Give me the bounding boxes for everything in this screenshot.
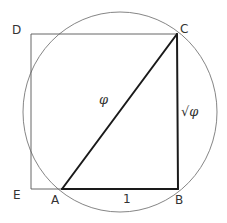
label-D: D <box>12 23 21 37</box>
label-B: B <box>175 193 183 207</box>
label-sqrt-phi: √φ <box>181 104 199 119</box>
edge-BC <box>177 34 178 189</box>
label-one: 1 <box>123 192 131 206</box>
label-phi: φ <box>99 92 109 107</box>
edge-AC-hypotenuse <box>62 34 177 189</box>
label-A: A <box>51 193 60 207</box>
geometry-diagram: D C E A B φ √φ 1 <box>0 0 227 223</box>
label-C: C <box>180 22 188 36</box>
label-E: E <box>13 188 21 202</box>
